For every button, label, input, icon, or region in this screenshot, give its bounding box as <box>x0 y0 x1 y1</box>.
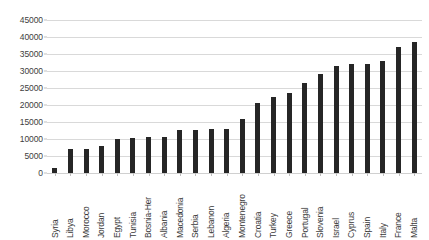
x-axis-tick-label: Italy <box>379 176 388 238</box>
bar-slot <box>281 20 297 173</box>
x-axis-slot: Syria <box>47 176 63 238</box>
bar <box>396 47 401 173</box>
x-axis-slot: Spain <box>360 176 376 238</box>
x-axis-tick-label: Serbia <box>191 176 200 238</box>
x-axis-tick-label: Bosnia-Her <box>144 176 153 238</box>
bar-slot <box>125 20 141 173</box>
bar <box>302 83 307 173</box>
x-axis: SyriaLibyaMoroccoJordanEgyptTunisiaBosni… <box>47 176 422 238</box>
x-axis-tick-label: Algeria <box>222 176 231 238</box>
bar-slot <box>141 20 157 173</box>
x-axis-slot: Bosnia-Her <box>141 176 157 238</box>
bar-slot <box>203 20 219 173</box>
bar <box>146 137 151 173</box>
x-axis-slot: Israel <box>328 176 344 238</box>
bar-slot <box>266 20 282 173</box>
bar-chart: 4500040000350003000025000200001500010000… <box>0 0 429 240</box>
x-axis-tick-label: Spain <box>363 176 372 238</box>
bar <box>130 138 135 173</box>
y-axis-tick-label: 15000 <box>20 117 43 127</box>
x-axis-tick-label: Tunisia <box>129 176 138 238</box>
bar <box>68 149 73 173</box>
bar-slot <box>78 20 94 173</box>
y-axis: 4500040000350003000025000200001500010000… <box>0 20 43 173</box>
x-axis-tick-label: Croatia <box>254 176 263 238</box>
x-axis-slot: Portugal <box>297 176 313 238</box>
bar-slot <box>375 20 391 173</box>
bar <box>271 97 276 174</box>
bar-slot <box>328 20 344 173</box>
bar-slot <box>156 20 172 173</box>
y-axis-tick-label: 30000 <box>20 66 43 76</box>
y-axis-tick-label: 45000 <box>20 15 43 25</box>
x-axis-slot: Albania <box>156 176 172 238</box>
bar <box>240 119 245 173</box>
x-axis-tick-label: Jordan <box>97 176 106 238</box>
x-axis-tick-label: Syria <box>51 176 60 238</box>
x-axis-tick-label: Portugal <box>301 176 310 238</box>
x-axis-slot: Slovenia <box>313 176 329 238</box>
bar-slot <box>391 20 407 173</box>
bar-slot <box>172 20 188 173</box>
bar-slot <box>313 20 329 173</box>
bar <box>162 137 167 173</box>
x-axis-slot: Libya <box>63 176 79 238</box>
bar-slot <box>406 20 422 173</box>
x-axis-slot: Jordan <box>94 176 110 238</box>
x-axis-slot: Montenegro <box>235 176 251 238</box>
y-axis-tick-label: 35000 <box>20 49 43 59</box>
y-axis-tick-label: 40000 <box>20 32 43 42</box>
bar-slot <box>110 20 126 173</box>
bar <box>380 61 385 173</box>
bar-slot <box>360 20 376 173</box>
x-axis-slot: France <box>391 176 407 238</box>
bar <box>334 66 339 173</box>
bar <box>99 146 104 173</box>
bar <box>365 64 370 173</box>
bar-slot <box>47 20 63 173</box>
bar-slot <box>235 20 251 173</box>
x-axis-slot: Malta <box>406 176 422 238</box>
bar <box>287 93 292 173</box>
bar <box>318 74 323 173</box>
y-axis-tick-label: 10000 <box>20 134 43 144</box>
x-axis-tick-label: Israel <box>332 176 341 238</box>
x-axis-slot: Morocco <box>78 176 94 238</box>
x-axis-tick-label: Morocco <box>82 176 91 238</box>
x-axis-tick-label: Albania <box>160 176 169 238</box>
x-axis-slot: Macedonia <box>172 176 188 238</box>
x-axis-tick-label: Malta <box>410 176 419 238</box>
bar <box>412 42 417 173</box>
x-axis-tick-label: Libya <box>66 176 75 238</box>
y-axis-tick-label: 25000 <box>20 83 43 93</box>
bar-series <box>47 20 422 173</box>
bar <box>224 129 229 173</box>
x-axis-slot: Italy <box>375 176 391 238</box>
bar-slot <box>344 20 360 173</box>
bar <box>349 64 354 173</box>
x-axis-slot: Cyprus <box>344 176 360 238</box>
x-axis-slot: Lebanon <box>203 176 219 238</box>
y-axis-tick-label: 20000 <box>20 100 43 110</box>
x-axis-slot: Serbia <box>188 176 204 238</box>
bar <box>115 139 120 173</box>
bar-slot <box>297 20 313 173</box>
bar-slot <box>63 20 79 173</box>
x-axis-tick-label: Cyprus <box>347 176 356 238</box>
plot-area <box>47 20 422 173</box>
x-axis-slot: Tunisia <box>125 176 141 238</box>
x-axis-slot: Egypt <box>110 176 126 238</box>
x-axis-tick-label: Macedonia <box>176 176 185 238</box>
x-axis-tick-label: France <box>394 176 403 238</box>
bar <box>84 149 89 173</box>
x-axis-slot: Croatia <box>250 176 266 238</box>
bar-slot <box>94 20 110 173</box>
y-axis-tick-label: 0 <box>38 168 43 178</box>
x-axis-slot: Greece <box>281 176 297 238</box>
x-axis-tick-label: Turkey <box>269 176 278 238</box>
x-axis-tick-label: Greece <box>285 176 294 238</box>
x-axis-tick-label: Montenegro <box>238 176 247 238</box>
bar <box>209 129 214 173</box>
bar-slot <box>219 20 235 173</box>
x-axis-slot: Turkey <box>266 176 282 238</box>
